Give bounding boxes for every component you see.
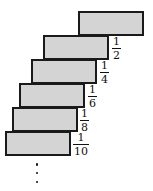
ellipsis-dot: [36, 172, 39, 175]
fraction-numerator: 1: [100, 60, 109, 72]
fraction-denominator: 6: [88, 97, 97, 109]
fraction-label-one-tenth: 1 10: [73, 132, 89, 157]
fraction-numerator: 1: [88, 84, 97, 96]
fraction-label-one-eighth: 1 8: [80, 108, 89, 133]
ellipsis-dot: [36, 163, 39, 166]
fraction-denominator: 10: [73, 145, 89, 157]
staircase-bar-3: [31, 59, 97, 84]
staircase-bar-5: [12, 107, 78, 132]
staircase-bar-2: [43, 35, 109, 60]
staircase-bar-4: [19, 83, 85, 108]
staircase-bar-6: [5, 131, 71, 156]
staircase-bar-1: [78, 11, 144, 36]
fraction-denominator: 4: [100, 73, 109, 85]
fraction-label-one-half: 1 2: [112, 36, 121, 61]
harmonic-staircase-figure: 1 2 1 4 1 6 1 8 1 10: [0, 0, 153, 191]
ellipsis-dot: [36, 181, 39, 184]
fraction-numerator: 1: [77, 132, 86, 144]
fraction-denominator: 2: [112, 49, 121, 61]
fraction-numerator: 1: [112, 36, 121, 48]
fraction-numerator: 1: [80, 108, 89, 120]
fraction-label-one-sixth: 1 6: [88, 84, 97, 109]
fraction-label-one-quarter: 1 4: [100, 60, 109, 85]
vertical-ellipsis-icon: [35, 163, 39, 183]
